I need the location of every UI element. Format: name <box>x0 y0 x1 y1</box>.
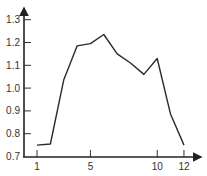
y-tick-label: 0.8 <box>6 128 20 139</box>
data-line <box>37 35 184 146</box>
x-axis-ticks: 151012 <box>34 150 190 172</box>
x-tick-label: 1 <box>34 161 40 172</box>
x-tick-label: 5 <box>88 161 94 172</box>
y-tick-label: 0.7 <box>6 151 20 162</box>
x-tick-label: 10 <box>152 161 164 172</box>
y-axis-ticks: 0.70.80.91.01.11.21.3 <box>6 14 31 162</box>
y-tick-label: 1.0 <box>6 83 20 94</box>
y-tick-label: 1.1 <box>6 60 20 71</box>
line-chart: 0.70.80.91.01.11.21.3 151012 <box>0 0 207 176</box>
y-tick-label: 1.2 <box>6 37 20 48</box>
x-tick-label: 12 <box>178 161 190 172</box>
y-tick-label: 0.9 <box>6 105 20 116</box>
y-tick-label: 1.3 <box>6 14 20 25</box>
